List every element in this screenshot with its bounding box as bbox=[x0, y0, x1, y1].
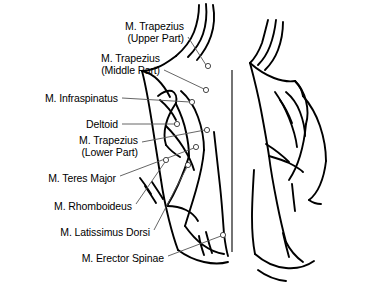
marker-erector-spinae bbox=[220, 232, 225, 237]
label-trapezius-lower: M. Trapezius (Lower Part) bbox=[46, 134, 138, 158]
label-teres-major-line1: M. Teres Major bbox=[48, 172, 116, 184]
right-infra-streak bbox=[280, 100, 292, 123]
marker-infraspinatus bbox=[189, 99, 194, 104]
right-lumbar-groove-a bbox=[292, 184, 295, 211]
marker-rhomboideus bbox=[163, 157, 168, 162]
label-latissimus-dorsi-line1: M. Latissimus Dorsi bbox=[60, 226, 150, 238]
right-shoulder-top bbox=[250, 63, 295, 81]
label-erector-spinae-line1: M. Erector Spinae bbox=[82, 252, 164, 264]
left-latissimus-fold bbox=[167, 206, 198, 221]
leader-trapezius-lower bbox=[142, 130, 205, 142]
marker-trapezius-middle bbox=[203, 87, 208, 92]
label-trapezius-middle: M. Trapezius (Middle Part) bbox=[68, 52, 160, 76]
right-figure-oblique-view bbox=[250, 20, 326, 281]
marker-teres-major bbox=[193, 144, 198, 149]
left-rhomboid-streak-a bbox=[140, 178, 151, 194]
label-latissimus-dorsi: M. Latissimus Dorsi bbox=[24, 226, 150, 238]
left-deltoid-inner-crease bbox=[176, 104, 189, 156]
right-torso-side bbox=[269, 156, 286, 242]
label-trapezius-lower-line2: (Lower Part) bbox=[46, 146, 138, 158]
leader-latissimus-dorsi bbox=[154, 167, 187, 230]
left-hip-right-edge bbox=[185, 226, 224, 254]
marker-trapezius-lower bbox=[204, 127, 209, 132]
marker-latissimus-dorsi bbox=[185, 162, 190, 167]
left-scapula-inferior-angle bbox=[166, 145, 180, 157]
left-spine-groove bbox=[214, 132, 224, 234]
anatomy-diagram: M. Trapezius (Upper Part) M. Trapezius (… bbox=[0, 0, 381, 296]
label-trapezius-upper-line2: (Upper Part) bbox=[96, 32, 184, 44]
right-waist-bottom bbox=[255, 254, 314, 268]
label-deltoid-line1: Deltoid bbox=[86, 118, 118, 130]
label-teres-major: M. Teres Major bbox=[16, 172, 116, 184]
marker-deltoid bbox=[174, 121, 179, 126]
right-flank-left bbox=[252, 170, 255, 254]
label-erector-spinae: M. Erector Spinae bbox=[42, 252, 164, 264]
right-lower-fold bbox=[258, 270, 286, 281]
label-trapezius-middle-line1: M. Trapezius bbox=[101, 52, 160, 64]
label-infraspinatus: M. Infraspinatus bbox=[18, 92, 118, 104]
label-trapezius-middle-line2: (Middle Part) bbox=[68, 64, 160, 76]
label-infraspinatus-line1: M. Infraspinatus bbox=[45, 92, 118, 104]
label-deltoid: Deltoid bbox=[62, 118, 118, 130]
leader-infraspinatus bbox=[122, 98, 190, 102]
marker-trapezius-upper bbox=[205, 63, 210, 68]
label-rhomboideus-line1: M. Rhomboideus bbox=[54, 200, 132, 212]
label-trapezius-upper-line1: M. Trapezius bbox=[125, 20, 184, 32]
label-trapezius-upper: M. Trapezius (Upper Part) bbox=[96, 20, 184, 44]
leader-trapezius-middle bbox=[164, 70, 204, 89]
label-trapezius-lower-line1: M. Trapezius bbox=[79, 134, 138, 146]
left-neck-inner-line-a bbox=[188, 4, 206, 57]
right-elbow-contour bbox=[309, 200, 321, 204]
right-arm-outer bbox=[309, 161, 326, 200]
label-rhomboideus: M. Rhomboideus bbox=[22, 200, 132, 212]
right-back-medial-contour bbox=[250, 63, 269, 156]
